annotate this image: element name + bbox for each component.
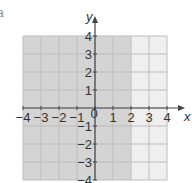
x-tick-label: −4 <box>16 110 31 125</box>
y-tick-label: 3 <box>85 47 92 62</box>
y-axis-arrow-icon <box>92 16 98 23</box>
y-tick-label: 4 <box>85 29 92 44</box>
x-tick-label: −3 <box>34 110 49 125</box>
x-tick-label: 3 <box>145 110 152 125</box>
y-tick-label: −2 <box>77 137 92 152</box>
y-tick-label: −4 <box>77 173 92 183</box>
x-tick-label: 2 <box>127 110 134 125</box>
x-tick-label: 4 <box>163 110 170 125</box>
coordinate-plot: xy−4−3−2−101234−4−3−2−11234 <box>0 0 192 183</box>
y-tick-label: 1 <box>85 83 92 98</box>
x-tick-label: −2 <box>52 110 67 125</box>
y-tick-label: −3 <box>77 155 92 170</box>
x-axis-label: x <box>183 109 191 124</box>
y-tick-label: 2 <box>85 65 92 80</box>
y-tick-label: −1 <box>77 119 92 134</box>
x-tick-label: 1 <box>109 110 116 125</box>
